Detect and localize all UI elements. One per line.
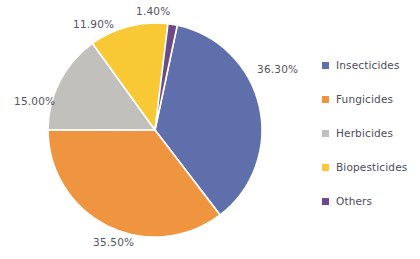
legend-item-label: Biopesticides (336, 162, 407, 173)
legend-item-insecticides[interactable]: Insecticides (322, 60, 418, 71)
legend-swatch-icon (322, 130, 329, 137)
legend-item-herbicides[interactable]: Herbicides (322, 128, 418, 139)
legend-swatch-icon (322, 62, 329, 69)
legend-item-label: Others (336, 196, 372, 207)
legend-item-biopesticides[interactable]: Biopesticides (322, 162, 418, 173)
legend-item-others[interactable]: Others (322, 196, 418, 207)
legend-swatch-icon (322, 96, 329, 103)
data-label-biopesticides: 11.90% (73, 19, 114, 30)
data-label-herbicides: 15.00% (14, 96, 55, 107)
data-label-insecticides: 36.30% (257, 64, 298, 75)
legend-swatch-icon (322, 164, 329, 171)
chart-legend: InsecticidesFungicidesHerbicidesBiopesti… (322, 60, 418, 207)
legend-item-label: Fungicides (336, 94, 393, 105)
data-label-others: 1.40% (136, 6, 170, 17)
pie-chart: 36.30% 35.50% 15.00% 11.90% 1.40% Insect… (0, 0, 420, 259)
legend-swatch-icon (322, 198, 329, 205)
legend-item-label: Herbicides (336, 128, 393, 139)
legend-item-fungicides[interactable]: Fungicides (322, 94, 418, 105)
data-label-fungicides: 35.50% (93, 237, 134, 248)
legend-item-label: Insecticides (336, 60, 400, 71)
